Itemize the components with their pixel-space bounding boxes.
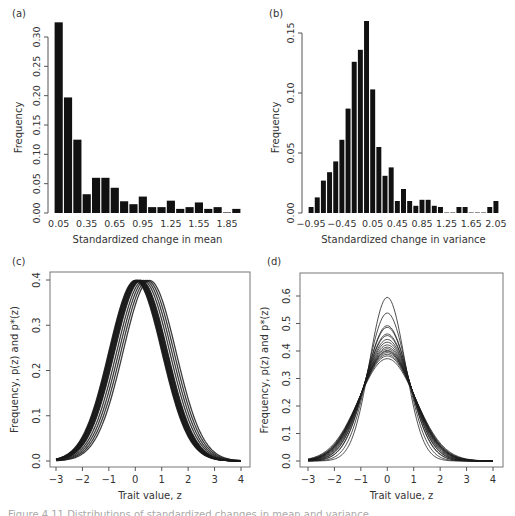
x-tick-label: 0.05 — [362, 218, 383, 229]
histogram-bar — [111, 188, 119, 213]
histogram-bar — [139, 197, 147, 213]
histogram-bar — [232, 209, 240, 213]
histogram-bar — [383, 176, 388, 213]
x-tick-label: 4 — [238, 474, 244, 485]
histogram-bar — [204, 209, 212, 213]
x-tick-label: 0.45 — [387, 218, 408, 229]
histogram-bar — [352, 62, 357, 213]
y-axis-label: Frequency, p(z) and p*(z) — [9, 306, 20, 433]
histogram-bar — [438, 207, 443, 213]
y-tick-label: 0.15 — [285, 22, 296, 43]
y-axis-label: Frequency — [13, 102, 24, 154]
x-tick-label: 1.65 — [461, 218, 482, 229]
histogram-bar — [186, 207, 194, 213]
figure-caption: Figure 4.11 Distributions of standardize… — [8, 508, 513, 516]
histogram-bar — [493, 201, 498, 213]
histogram-bar — [376, 147, 381, 213]
x-axis-label: Trait value, z — [369, 490, 434, 500]
histogram-bar — [214, 207, 222, 213]
histogram-bar — [481, 212, 486, 213]
histogram-bar — [309, 207, 314, 213]
x-tick-label: −2 — [75, 474, 90, 485]
histogram-bar — [463, 207, 468, 213]
y-tick-label: 0.0 — [31, 453, 42, 469]
histogram-bar — [55, 22, 63, 213]
chart-c: −3−2−1012340.00.10.20.30.4Trait value, z… — [0, 250, 258, 500]
histogram-bar — [426, 200, 431, 213]
histogram-bar — [92, 178, 100, 213]
panel-label-c: (c) — [12, 256, 25, 267]
x-tick-label: 0.85 — [411, 218, 432, 229]
x-tick-label: 0.05 — [48, 218, 69, 229]
histogram-bar — [148, 207, 156, 213]
y-tick-label: 0.15 — [31, 114, 42, 135]
histogram-bar — [444, 212, 449, 213]
histogram-bar — [407, 201, 412, 213]
histogram-bar — [223, 212, 231, 213]
x-tick-label: 0.95 — [132, 218, 153, 229]
x-tick-label: −3 — [301, 474, 316, 485]
x-tick-label: 3 — [463, 474, 469, 485]
x-tick-label: 1.25 — [436, 218, 457, 229]
histogram-bar — [450, 212, 455, 213]
y-tick-label: 0.25 — [31, 56, 42, 77]
histogram-bar — [413, 206, 418, 213]
density-curves — [308, 297, 493, 461]
x-tick-label: −1 — [353, 474, 368, 485]
y-axis-label: Frequency — [270, 102, 281, 154]
histogram-bar — [195, 202, 203, 213]
histogram-bar — [364, 21, 369, 213]
histogram-bar — [176, 209, 184, 213]
y-axis-label: Frequency, p(z) and p*(z) — [259, 306, 270, 433]
histogram-bar — [129, 204, 137, 213]
y-tick-label: 0.3 — [281, 371, 292, 387]
y-tick-label: 0.00 — [285, 202, 296, 223]
y-tick-label: 0.00 — [31, 202, 42, 223]
y-tick-label: 0.3 — [31, 317, 42, 333]
histogram-bar — [315, 197, 320, 213]
panel-label-b: (b) — [269, 8, 283, 19]
histogram-bar — [333, 161, 338, 213]
x-tick-label: 0 — [384, 474, 390, 485]
x-tick-label: 0.65 — [104, 218, 125, 229]
chart-b: 0.000.050.100.15−0.95−0.450.050.450.851.… — [257, 0, 515, 250]
histogram-bar — [370, 89, 375, 213]
y-tick-label: 0.0 — [281, 453, 292, 469]
histogram-bar — [101, 178, 109, 213]
panel-label-d: (d) — [267, 256, 281, 267]
histogram-bar — [420, 200, 425, 213]
x-tick-label: 2 — [437, 474, 443, 485]
histogram-bar — [83, 194, 91, 213]
y-tick-label: 0.30 — [31, 26, 42, 47]
histogram-bar — [469, 212, 474, 213]
histogram-bar — [321, 181, 326, 213]
histogram-bar — [475, 212, 480, 213]
panel-d: (d) −3−2−1012340.00.10.20.30.40.50.6Trai… — [255, 250, 515, 500]
chart-a: 0.000.050.100.150.200.250.300.050.350.65… — [0, 0, 258, 250]
histogram-bar — [120, 201, 128, 213]
histogram-bar — [487, 207, 492, 213]
density-curves — [56, 280, 241, 460]
density-curve — [56, 281, 241, 461]
y-tick-label: 0.05 — [285, 142, 296, 163]
panel-label-a: (a) — [12, 8, 26, 19]
y-tick-label: 0.05 — [31, 173, 42, 194]
x-tick-label: 0 — [132, 474, 138, 485]
histogram-bar — [456, 207, 461, 213]
x-tick-label: −2 — [327, 474, 342, 485]
x-tick-label: −3 — [49, 474, 64, 485]
histogram-bar — [73, 140, 81, 213]
panel-b: (b) 0.000.050.100.15−0.95−0.450.050.450.… — [257, 0, 515, 250]
histogram-bar — [327, 172, 332, 213]
x-tick-label: 3 — [211, 474, 217, 485]
histogram-bar — [395, 201, 400, 213]
density-curve — [308, 297, 493, 461]
y-tick-label: 0.4 — [31, 272, 42, 288]
y-tick-label: 0.2 — [281, 398, 292, 414]
histogram-bar — [157, 207, 165, 213]
x-tick-label: −0.95 — [297, 218, 326, 229]
y-tick-label: 0.6 — [281, 288, 292, 304]
x-tick-label: −0.45 — [327, 218, 356, 229]
histogram-bar — [432, 206, 437, 213]
histogram-bar — [346, 109, 351, 213]
